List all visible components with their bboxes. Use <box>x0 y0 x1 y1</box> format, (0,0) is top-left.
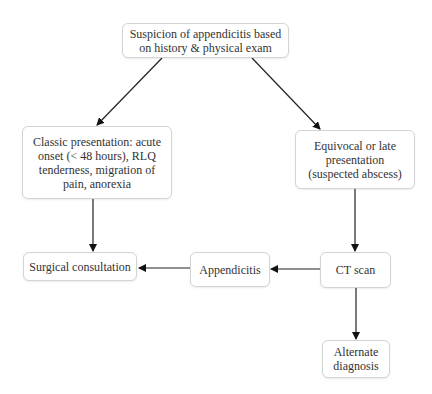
edge-suspicion-equivocal <box>252 58 320 129</box>
node-surgical-consultation: Surgical consultation <box>23 252 137 281</box>
node-suspicion: Suspicion of appendicitis based on histo… <box>122 23 289 58</box>
node-classic-presentation: Classic presentation: acute onset (< 48 … <box>22 126 172 199</box>
node-equivocal-presentation: Equivocal or late presentation (suspecte… <box>295 130 415 189</box>
node-alternate-diagnosis: Alternate diagnosis <box>322 340 390 378</box>
node-ct-scan: CT scan <box>320 252 391 288</box>
edge-suspicion-classic <box>97 58 162 125</box>
node-appendicitis: Appendicitis <box>190 252 270 287</box>
